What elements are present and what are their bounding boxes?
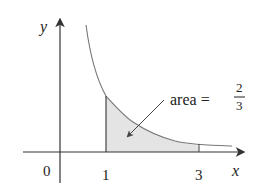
tick-label-1: 1	[102, 167, 110, 183]
x-axis-label: x	[231, 162, 239, 179]
area-numerator: 2	[236, 80, 243, 95]
tick-label-3: 3	[195, 167, 203, 183]
origin-label: 0	[43, 163, 51, 179]
area-label: area =	[170, 91, 210, 108]
area-diagram: y x 0 1 3 area = 2 3	[0, 0, 262, 192]
y-axis-label: y	[38, 18, 48, 36]
area-denominator: 3	[236, 98, 243, 113]
